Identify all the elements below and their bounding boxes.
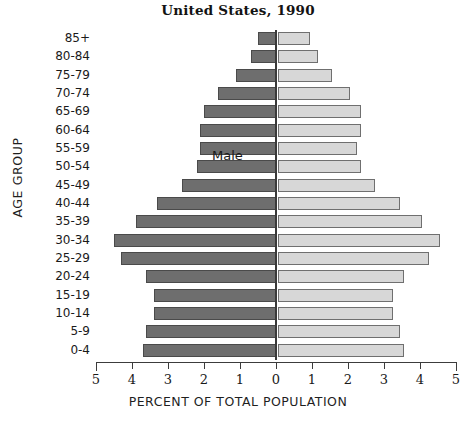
bar-female-45-49 [278, 179, 375, 192]
bar-male-60-64 [200, 124, 276, 137]
bar-female-40-44 [278, 197, 400, 210]
x-tick-0 [96, 362, 97, 371]
age-group-label-65-69: 65-69 [38, 104, 90, 118]
x-axis [96, 362, 456, 372]
x-tick-2 [168, 362, 169, 369]
x-tick-label-7: 2 [333, 372, 363, 387]
age-group-label-15-19: 15-19 [38, 288, 90, 302]
bar-female-25-29 [278, 252, 429, 265]
bar-male-25-29 [121, 252, 276, 265]
x-tick-label-5: 0 [261, 372, 291, 387]
bar-female-20-24 [278, 270, 404, 283]
bar-male-0-4 [143, 344, 276, 357]
x-tick-4 [240, 362, 241, 369]
bar-female-85+ [278, 32, 310, 45]
age-group-label-10-14: 10-14 [38, 306, 90, 320]
x-tick-label-6: 1 [297, 372, 327, 387]
age-group-label-55-59: 55-59 [38, 141, 90, 155]
age-group-label-80-84: 80-84 [38, 49, 90, 63]
bar-female-0-4 [278, 344, 404, 357]
bar-male-75-79 [236, 69, 276, 82]
bar-female-10-14 [278, 307, 393, 320]
age-group-label-40-44: 40-44 [38, 196, 90, 210]
x-axis-title: PERCENT OF TOTAL POPULATION [0, 394, 476, 409]
age-group-label-45-49: 45-49 [38, 178, 90, 192]
age-group-labels: 85+80-8475-7970-7465-6960-6455-5950-5445… [34, 30, 90, 360]
x-tick-10 [456, 362, 457, 371]
bar-female-30-34 [278, 234, 440, 247]
x-tick-1 [132, 362, 133, 369]
age-group-label-35-39: 35-39 [38, 214, 90, 228]
x-tick-label-4: 1 [225, 372, 255, 387]
x-tick-3 [204, 362, 205, 369]
age-group-label-0-4: 0-4 [38, 343, 90, 357]
x-tick-label-1: 4 [117, 372, 147, 387]
bar-female-70-74 [278, 87, 350, 100]
bar-male-80-84 [251, 50, 276, 63]
bar-female-15-19 [278, 289, 393, 302]
x-tick-label-0: 5 [81, 372, 111, 387]
age-group-label-20-24: 20-24 [38, 269, 90, 283]
age-group-label-75-79: 75-79 [38, 68, 90, 82]
bar-male-85+ [258, 32, 276, 45]
chart-title: United States, 1990 [0, 2, 476, 18]
x-tick-label-8: 3 [369, 372, 399, 387]
x-tick-label-2: 3 [153, 372, 183, 387]
age-group-label-85+: 85+ [38, 31, 90, 45]
bar-female-65-69 [278, 105, 361, 118]
x-tick-label-9: 4 [405, 372, 435, 387]
bar-male-5-9 [146, 325, 276, 338]
bar-female-50-54 [278, 160, 361, 173]
bar-male-15-19 [154, 289, 276, 302]
bar-female-75-79 [278, 69, 332, 82]
x-tick-label-10: 5 [441, 372, 471, 387]
bar-female-60-64 [278, 124, 361, 137]
age-group-label-30-34: 30-34 [38, 233, 90, 247]
bar-male-70-74 [218, 87, 276, 100]
age-group-label-60-64: 60-64 [38, 123, 90, 137]
bar-male-35-39 [136, 215, 276, 228]
bar-male-65-69 [204, 105, 276, 118]
x-tick-9 [420, 362, 421, 369]
age-group-label-5-9: 5-9 [38, 324, 90, 338]
age-group-label-25-29: 25-29 [38, 251, 90, 265]
bar-male-10-14 [154, 307, 276, 320]
bar-male-30-34 [114, 234, 276, 247]
bar-male-20-24 [146, 270, 276, 283]
population-pyramid-chart: United States, 1990 AGE GROUP 85+80-8475… [0, 0, 476, 421]
x-tick-5 [276, 362, 277, 369]
bar-male-40-44 [157, 197, 276, 210]
x-tick-6 [312, 362, 313, 369]
bar-female-5-9 [278, 325, 400, 338]
bar-female-55-59 [278, 142, 357, 155]
bar-female-35-39 [278, 215, 422, 228]
bar-female-80-84 [278, 50, 318, 63]
x-tick-7 [348, 362, 349, 369]
plot-area: Male Female [96, 30, 456, 360]
center-axis-line [275, 30, 277, 360]
x-tick-8 [384, 362, 385, 369]
x-tick-label-3: 2 [189, 372, 219, 387]
bar-male-45-49 [182, 179, 276, 192]
age-group-label-50-54: 50-54 [38, 159, 90, 173]
age-group-label-70-74: 70-74 [38, 86, 90, 100]
y-axis-title: AGE GROUP [10, 113, 25, 243]
male-series-annotation: Male [212, 148, 243, 163]
